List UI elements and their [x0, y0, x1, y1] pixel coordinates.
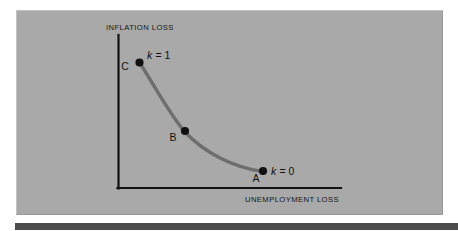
point-a-annotation-value: = 0 [279, 165, 294, 177]
point-a-label: A [252, 172, 259, 184]
point-c-annotation-var: k [147, 49, 153, 61]
bottom-rule [15, 223, 458, 230]
point-a-annotation-var: k [271, 165, 277, 177]
point-c-annotation-value: = 1 [155, 49, 170, 61]
y-axis-title: INFLATION LOSS [106, 23, 174, 32]
point-a-dot [259, 167, 267, 175]
tradeoff-curve [141, 64, 263, 172]
plot-canvas: C k= 1 B A k= 0 INFLATION LOSS UNEMPLOYM… [0, 0, 458, 231]
x-axis-title: UNEMPLOYMENT LOSS [245, 195, 339, 204]
point-c-dot [135, 58, 143, 66]
figure-root: C k= 1 B A k= 0 INFLATION LOSS UNEMPLOYM… [0, 0, 458, 231]
point-b-label: B [169, 131, 176, 143]
point-b-dot [181, 127, 189, 135]
point-a-annotation: k= 0 [271, 165, 294, 177]
point-c-label: C [121, 60, 129, 72]
point-c-annotation: k= 1 [147, 49, 170, 61]
